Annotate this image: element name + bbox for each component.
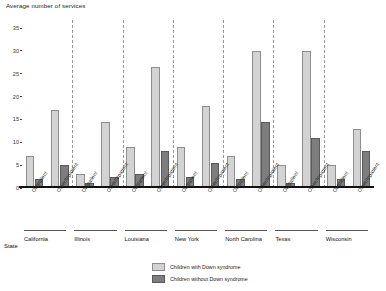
bar-with-down-syndrome <box>353 129 362 188</box>
bar-with-down-syndrome <box>202 106 211 188</box>
y-tick-label: 15 <box>13 116 19 122</box>
bar-pair <box>151 28 169 188</box>
group-label: Texas <box>275 236 290 242</box>
bar-pair <box>302 28 320 188</box>
chart-legend: Children with Down syndromeChildren with… <box>152 263 248 283</box>
legend-item: Children with Down syndrome <box>152 263 248 271</box>
y-tick-mark <box>20 73 23 74</box>
bar-pair <box>353 28 371 188</box>
y-tick-label: 35 <box>13 25 19 31</box>
y-tick-mark <box>20 28 23 29</box>
group-rule <box>326 230 368 231</box>
bar-with-down-syndrome <box>252 51 261 188</box>
group-label: North Carolina <box>225 236 262 242</box>
group-rule <box>74 230 116 231</box>
bar-chart: Average number of services 0510152025303… <box>0 0 386 291</box>
group-label: New York <box>175 236 199 242</box>
y-tick-label: 25 <box>13 71 19 77</box>
group-label: Wisconsin <box>326 236 352 242</box>
group-label: Louisiana <box>125 236 149 242</box>
bar-with-down-syndrome <box>126 147 135 188</box>
legend-swatch <box>152 275 165 283</box>
group-label: Illinois <box>74 236 90 242</box>
y-tick-mark <box>20 96 23 97</box>
bar-pair <box>202 28 220 188</box>
y-tick-mark <box>20 142 23 143</box>
y-tick-label: 30 <box>13 48 19 54</box>
bar-pair <box>101 28 119 188</box>
legend-swatch <box>152 263 165 271</box>
bar-with-down-syndrome <box>302 51 311 188</box>
y-tick-label: 10 <box>13 139 19 145</box>
bar-with-down-syndrome <box>151 67 160 188</box>
bar-with-down-syndrome <box>51 110 60 188</box>
bar-pair <box>26 28 44 188</box>
x-axis-line <box>19 186 374 188</box>
y-tick-mark <box>20 119 23 120</box>
group-labels: CaliforniaIllinoisLouisianaNew YorkNorth… <box>22 230 374 248</box>
legend-item: Children without Down syndrome <box>152 275 248 283</box>
bar-pair <box>252 28 270 188</box>
group-label: California <box>24 236 48 242</box>
y-axis-title: Average number of services <box>6 2 86 9</box>
category-labels: OutpatientOther/InpatientOutpatientOther… <box>22 190 374 232</box>
group-rule <box>125 230 167 231</box>
y-tick-label: 5 <box>16 162 19 168</box>
bar-pair <box>51 28 69 188</box>
legend-label: Children with Down syndrome <box>170 264 240 270</box>
y-tick-mark <box>20 165 23 166</box>
x-axis-title: State <box>4 243 18 249</box>
y-tick-label: 20 <box>13 94 19 100</box>
bar-with-down-syndrome <box>101 122 110 188</box>
group-rule <box>275 230 317 231</box>
group-rule <box>175 230 217 231</box>
y-tick-mark <box>20 50 23 51</box>
legend-label: Children without Down syndrome <box>170 276 248 282</box>
group-rule <box>225 230 267 231</box>
group-rule <box>24 230 66 231</box>
